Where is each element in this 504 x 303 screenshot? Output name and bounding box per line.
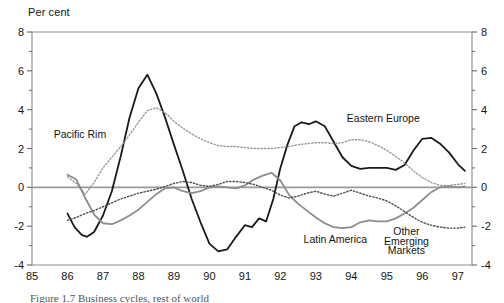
- y-tick-label-left: -2: [14, 220, 24, 232]
- figure-container: Per cent 8866442200-2-2-4-48586878889909…: [0, 0, 504, 303]
- x-tick-label: 90: [203, 270, 215, 282]
- y-tick-label-left: 0: [18, 181, 24, 193]
- y-tick-label-left: -4: [14, 259, 24, 271]
- y-tick-label-right: 8: [481, 26, 487, 38]
- x-tick-label: 87: [97, 270, 109, 282]
- series-annotation: Markets: [388, 244, 425, 256]
- y-tick-label-right: 6: [481, 65, 487, 77]
- y-tick-label-right: 4: [481, 104, 487, 116]
- y-tick-label-left: 8: [18, 26, 24, 38]
- x-tick-label: 91: [239, 270, 251, 282]
- x-tick-label: 92: [274, 270, 286, 282]
- x-tick-label: 86: [61, 270, 73, 282]
- y-tick-label-left: 6: [18, 65, 24, 77]
- x-tick-label: 89: [168, 270, 180, 282]
- series-annotation: Latin America: [304, 233, 368, 245]
- y-tick-label-right: 2: [481, 143, 487, 155]
- x-tick-label: 95: [381, 270, 393, 282]
- line-chart: 8866442200-2-2-4-48586878889909192939495…: [0, 0, 504, 303]
- y-tick-label-right: -2: [481, 220, 491, 232]
- y-tick-label-left: 2: [18, 143, 24, 155]
- x-tick-label: 94: [345, 270, 357, 282]
- x-tick-label: 97: [452, 270, 464, 282]
- x-tick-label: 88: [132, 270, 144, 282]
- series-annotation: Pacific Rim: [54, 128, 107, 140]
- y-tick-label-right: -4: [481, 259, 491, 271]
- x-tick-label: 93: [310, 270, 322, 282]
- x-tick-label: 85: [26, 270, 38, 282]
- y-tick-label-right: 0: [481, 181, 487, 193]
- figure-caption: Figure 1.7 Business cycles, rest of worl…: [30, 292, 490, 303]
- series-annotation: Eastern Europe: [347, 112, 420, 124]
- y-tick-label-left: 4: [18, 104, 24, 116]
- x-tick-label: 96: [416, 270, 428, 282]
